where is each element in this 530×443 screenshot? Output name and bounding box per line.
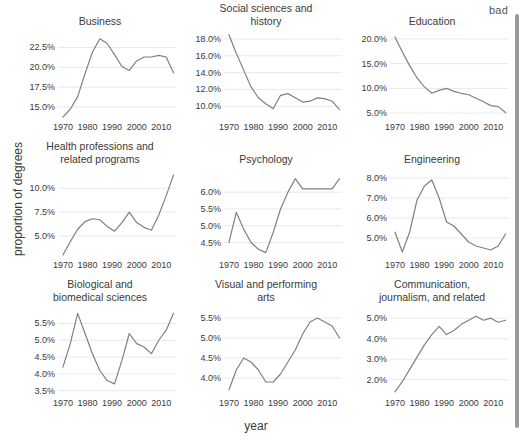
x-tick-label: 1980 (77, 122, 97, 132)
data-series-line (395, 316, 506, 392)
x-tick-label: 1980 (243, 398, 263, 408)
facet-health-professions-and-related-programs: Health professions andrelated programs5.… (18, 140, 182, 278)
x-tick-label: 1990 (434, 122, 454, 132)
x-tick-label: 2000 (459, 260, 479, 270)
y-tick-label: 10.0% (195, 101, 221, 111)
x-tick-label: 2000 (127, 398, 147, 408)
x-tick-label: 2000 (293, 122, 313, 132)
facet-title-line: Visual and performing (184, 278, 348, 291)
x-tick-label: 1990 (102, 260, 122, 270)
x-tick-label: 2000 (293, 260, 313, 270)
plot-area: 5.0%10.0%15.0%20.0% (390, 34, 508, 118)
facet-biological-and-biomedical-sciences: Biological andbiomedical sciences3.5%4.0… (18, 278, 182, 416)
y-tick-label: 4.5% (200, 353, 221, 363)
facet-communication-journalism-and-related: Communication,journalism, and related2.0… (350, 278, 514, 416)
y-tick-label: 20.0% (29, 62, 55, 72)
facet-title-line: history (184, 15, 348, 28)
line-chart-svg (224, 172, 342, 256)
facet-title: Visual and performingarts (184, 278, 348, 303)
x-tick-label: 1990 (434, 398, 454, 408)
x-tick-label: 1980 (77, 260, 97, 270)
facet-title: Biological andbiomedical sciences (18, 278, 182, 303)
facet-title-line: biomedical sciences (18, 291, 182, 304)
y-tick-label: 4.0% (34, 369, 55, 379)
x-tick-label: 2010 (317, 260, 337, 270)
line-chart-svg (224, 310, 342, 394)
y-tick-label: 10.0% (361, 83, 387, 93)
y-tick-label: 5.5% (200, 313, 221, 323)
x-tick-label: 1980 (409, 398, 429, 408)
facet-education: Education5.0%10.0%15.0%20.0%197019801990… (350, 2, 514, 140)
x-tick-labels: 19701980199020002010 (224, 260, 342, 274)
y-tick-label: 20.0% (361, 34, 387, 44)
data-series-line (395, 180, 506, 252)
y-tick-label: 22.5% (29, 42, 55, 52)
y-tick-label: 8.0% (366, 173, 387, 183)
x-tick-labels: 19701980199020002010 (224, 122, 342, 136)
plot-area: 15.0%17.5%20.0%22.5% (58, 34, 176, 118)
x-tick-label: 2000 (127, 260, 147, 270)
y-tick-label: 3.0% (366, 354, 387, 364)
data-series-line (229, 179, 340, 253)
y-tick-label: 6.0% (200, 187, 221, 197)
facet-title: Psychology (184, 153, 348, 166)
facet-grid: Business15.0%17.5%20.0%22.5%197019801990… (18, 2, 512, 416)
x-tick-label: 1970 (385, 398, 405, 408)
x-tick-label: 2010 (151, 260, 171, 270)
data-series-line (63, 39, 174, 117)
x-tick-label: 2000 (127, 122, 147, 132)
x-tick-label: 2000 (459, 398, 479, 408)
data-series-line (63, 175, 174, 255)
y-tick-label: 5.0% (200, 333, 221, 343)
facet-business: Business15.0%17.5%20.0%22.5%197019801990… (18, 2, 182, 140)
line-chart-svg (390, 172, 508, 256)
y-tick-label: 12.0% (195, 84, 221, 94)
y-tick-label: 2.0% (366, 375, 387, 385)
x-tick-label: 2010 (317, 122, 337, 132)
x-tick-labels: 19701980199020002010 (58, 122, 176, 136)
data-series-line (63, 313, 174, 384)
x-tick-labels: 19701980199020002010 (390, 122, 508, 136)
x-tick-label: 2000 (293, 398, 313, 408)
y-tick-label: 7.5% (34, 207, 55, 217)
x-tick-label: 1970 (53, 122, 73, 132)
y-tick-label: 5.0% (200, 221, 221, 231)
plot-area: 5.0%7.5%10.0% (58, 172, 176, 256)
x-tick-labels: 19701980199020002010 (390, 398, 508, 412)
y-tick-label: 4.0% (200, 373, 221, 383)
x-tick-label: 1980 (409, 260, 429, 270)
x-tick-label: 1980 (243, 122, 263, 132)
y-tick-label: 5.5% (34, 318, 55, 328)
facet-title-line: Education (350, 15, 514, 28)
x-tick-label: 1980 (77, 398, 97, 408)
x-tick-label: 1970 (219, 122, 239, 132)
facet-title: Business (18, 15, 182, 28)
facet-title: Social sciences andhistory (184, 2, 348, 27)
line-chart-svg (224, 34, 342, 118)
y-tick-label: 15.0% (29, 102, 55, 112)
y-tick-label: 5.0% (366, 108, 387, 118)
scrollbar-thumb[interactable] (515, 14, 519, 428)
plot-area: 4.5%5.0%5.5%6.0% (224, 172, 342, 256)
facet-engineering: Engineering5.0%6.0%7.0%8.0%1970198019902… (350, 140, 514, 278)
facet-title: Engineering (350, 153, 514, 166)
y-tick-label: 5.5% (200, 204, 221, 214)
x-tick-label: 1970 (385, 260, 405, 270)
chart-page: bad proportion of degrees year Business1… (0, 0, 530, 443)
x-tick-label: 1970 (385, 122, 405, 132)
plot-area: 4.0%4.5%5.0%5.5% (224, 310, 342, 394)
y-tick-label: 4.0% (366, 334, 387, 344)
x-tick-label: 2010 (317, 398, 337, 408)
plot-area: 2.0%3.0%4.0%5.0% (390, 310, 508, 394)
y-tick-label: 16.0% (195, 51, 221, 61)
x-tick-label: 2010 (151, 122, 171, 132)
y-tick-label: 5.0% (366, 313, 387, 323)
y-tick-label: 15.0% (361, 59, 387, 69)
facet-title-line: related programs (18, 153, 182, 166)
x-tick-label: 1990 (268, 260, 288, 270)
x-tick-label: 1990 (268, 398, 288, 408)
x-tick-label: 1980 (409, 122, 429, 132)
y-tick-label: 5.0% (34, 231, 55, 241)
x-tick-labels: 19701980199020002010 (58, 398, 176, 412)
plot-area: 3.5%4.0%4.5%5.0%5.5% (58, 310, 176, 394)
